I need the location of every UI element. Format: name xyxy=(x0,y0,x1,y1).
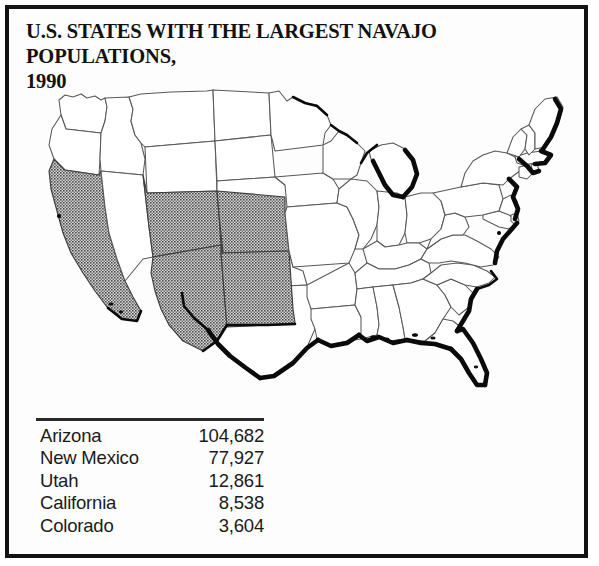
map-container xyxy=(21,67,577,407)
figure-frame: U.S. STATES WITH THE LARGEST NAVAJO POPU… xyxy=(5,5,588,558)
state-name: California xyxy=(40,492,116,514)
state-wisconsin xyxy=(323,131,365,179)
state-missouri xyxy=(285,203,359,267)
state-wyoming xyxy=(145,141,217,193)
table-top-rule xyxy=(36,418,264,421)
state-new-mexico xyxy=(221,251,295,327)
state-population: 104,682 xyxy=(199,425,264,447)
state-north-dakota xyxy=(213,90,271,141)
state-name: Colorado xyxy=(40,515,113,537)
united-states-map xyxy=(21,67,577,407)
state-population: 3,604 xyxy=(219,515,264,537)
state-population: 8,538 xyxy=(219,492,264,514)
table-row: Colorado 3,604 xyxy=(36,515,264,537)
table-row: Utah 12,861 xyxy=(36,470,264,492)
state-indiana xyxy=(377,191,407,247)
state-montana xyxy=(129,90,215,147)
state-name: New Mexico xyxy=(40,447,139,469)
state-arizona xyxy=(151,245,227,351)
population-table: Arizona 104,682 New Mexico 77,927 Utah 1… xyxy=(36,425,264,537)
state-south-dakota xyxy=(215,135,275,181)
table-row: California 8,538 xyxy=(36,492,264,514)
state-population: 12,861 xyxy=(209,470,264,492)
table-row: New Mexico 77,927 xyxy=(36,447,264,469)
map-states-layer xyxy=(49,90,563,385)
state-washington xyxy=(59,94,107,133)
state-arkansas xyxy=(307,263,357,309)
state-name: Arizona xyxy=(40,425,101,447)
state-name: Utah xyxy=(40,470,78,492)
table-row: Arizona 104,682 xyxy=(36,425,264,447)
state-population: 77,927 xyxy=(209,447,264,469)
state-colorado xyxy=(217,191,289,253)
state-vermont xyxy=(507,129,527,157)
